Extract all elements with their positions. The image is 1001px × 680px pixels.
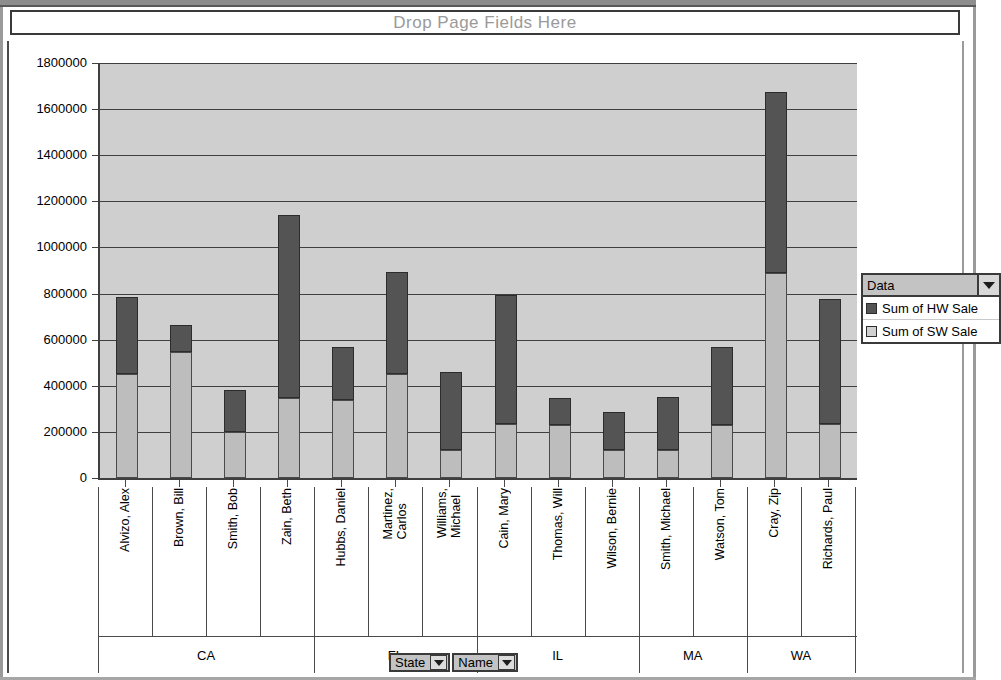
bar-segment-hw-sales[interactable] <box>495 295 517 424</box>
legend-swatch-icon <box>866 326 877 337</box>
y-axis-tick-mark <box>92 247 99 248</box>
bar-stack[interactable] <box>440 63 462 478</box>
category-tick-mark <box>395 480 396 487</box>
y-axis-tick-label: 1000000 <box>11 240 87 253</box>
bar-segment-hw-sales[interactable] <box>116 297 138 374</box>
category-tick-mark <box>125 480 126 487</box>
category-cell-divider <box>747 487 748 636</box>
scan-edge-top-shadow <box>0 5 976 7</box>
category-tick-mark <box>666 480 667 487</box>
category-label: Watson, Tom <box>713 488 727 562</box>
bar-segment-sw-sales[interactable] <box>170 352 192 478</box>
group-label-cell: MA <box>639 637 747 673</box>
category-tick-mark <box>612 480 613 487</box>
y-axis-tick-mark <box>92 294 99 295</box>
bar-stack[interactable] <box>657 63 679 478</box>
y-axis-tick-label: 1400000 <box>11 148 87 161</box>
category-cell-divider <box>206 487 207 636</box>
y-axis-tick-label: 1800000 <box>11 56 87 69</box>
bar-stack[interactable] <box>170 63 192 478</box>
category-label-cell: Watson, Tom <box>693 488 747 636</box>
bar-stack[interactable] <box>765 63 787 478</box>
category-label-cell: Alvizo, Alex <box>98 488 152 636</box>
bar-stack[interactable] <box>116 63 138 478</box>
category-cell-divider <box>693 487 694 636</box>
bar-segment-hw-sales[interactable] <box>603 412 625 450</box>
category-label-cell: Cain, Mary <box>477 488 531 636</box>
bar-stack[interactable] <box>603 63 625 478</box>
bar-segment-hw-sales[interactable] <box>224 390 246 432</box>
category-tick-mark <box>828 480 829 487</box>
bar-stack[interactable] <box>386 63 408 478</box>
group-label: IL <box>552 648 563 663</box>
legend-item-label: Sum of SW Sale <box>882 324 977 339</box>
bar-segment-hw-sales[interactable] <box>332 347 354 400</box>
bar-segment-sw-sales[interactable] <box>819 424 841 478</box>
bar-stack[interactable] <box>224 63 246 478</box>
legend-field-button[interactable]: Data <box>863 275 999 297</box>
field-button-name[interactable]: Name <box>452 653 518 672</box>
bar-segment-hw-sales[interactable] <box>765 92 787 273</box>
category-label: Cray, Zip <box>767 488 781 540</box>
chevron-down-icon[interactable] <box>430 655 447 670</box>
pivot-chart[interactable]: 0200000400000600000800000100000012000001… <box>7 41 964 673</box>
bar-segment-hw-sales[interactable] <box>386 272 408 375</box>
category-label-cell: Hubbs, Daniel <box>314 488 368 636</box>
legend[interactable]: Data Sum of HW SaleSum of SW Sale <box>861 273 1001 344</box>
bar-segment-sw-sales[interactable] <box>765 273 787 478</box>
bar-segment-hw-sales[interactable] <box>440 372 462 450</box>
bar-segment-sw-sales[interactable] <box>657 450 679 478</box>
bar-stack[interactable] <box>495 63 517 478</box>
category-tick-mark <box>558 480 559 487</box>
gridline <box>100 109 857 110</box>
group-label-cell: CA <box>98 637 314 673</box>
chevron-down-icon[interactable] <box>977 275 999 295</box>
category-label: Hubbs, Daniel <box>334 488 348 569</box>
plot-wrapper: 0200000400000600000800000100000012000001… <box>9 41 966 673</box>
legend-item[interactable]: Sum of HW Sale <box>863 297 999 319</box>
category-cell-divider <box>855 487 856 636</box>
bar-segment-hw-sales[interactable] <box>819 299 841 424</box>
bar-segment-sw-sales[interactable] <box>386 374 408 478</box>
bar-segment-sw-sales[interactable] <box>711 425 733 478</box>
plot-area <box>98 63 857 478</box>
bar-segment-sw-sales[interactable] <box>440 450 462 478</box>
bar-segment-sw-sales[interactable] <box>495 424 517 478</box>
category-label: Thomas, Will <box>551 488 565 562</box>
bar-segment-sw-sales[interactable] <box>278 398 300 478</box>
bar-segment-hw-sales[interactable] <box>170 325 192 353</box>
group-label: WA <box>791 648 811 663</box>
bar-segment-sw-sales[interactable] <box>116 374 138 478</box>
category-tick-mark <box>720 480 721 487</box>
bar-segment-sw-sales[interactable] <box>332 400 354 478</box>
field-button-state[interactable]: State <box>389 653 450 672</box>
y-axis-tick-label: 1600000 <box>11 102 87 115</box>
bar-stack[interactable] <box>278 63 300 478</box>
page-fields-drop-zone[interactable]: Drop Page Fields Here <box>10 10 960 35</box>
field-button-label: State <box>395 655 430 670</box>
bar-stack[interactable] <box>711 63 733 478</box>
bar-segment-hw-sales[interactable] <box>278 215 300 398</box>
scan-edge-left <box>0 7 3 680</box>
legend-item[interactable]: Sum of SW Sale <box>863 319 999 342</box>
legend-item-label: Sum of HW Sale <box>882 301 978 316</box>
category-tick-mark <box>179 480 180 487</box>
y-axis-tick-mark <box>92 340 99 341</box>
bar-segment-hw-sales[interactable] <box>657 397 679 450</box>
category-tick-mark <box>287 480 288 487</box>
field-buttons-bar: StateName <box>389 653 518 672</box>
bar-stack[interactable] <box>819 63 841 478</box>
chevron-down-icon[interactable] <box>498 655 515 670</box>
category-cell-divider <box>639 487 640 636</box>
bar-segment-sw-sales[interactable] <box>549 425 571 478</box>
category-label: Martinez, Carlos <box>381 488 409 541</box>
bar-segment-hw-sales[interactable] <box>711 347 733 425</box>
category-cell-divider <box>260 487 261 636</box>
bar-stack[interactable] <box>549 63 571 478</box>
bar-segment-sw-sales[interactable] <box>224 432 246 478</box>
bar-stack[interactable] <box>332 63 354 478</box>
bar-segment-hw-sales[interactable] <box>549 398 571 425</box>
category-label: Zain, Beth <box>280 488 294 547</box>
bar-segment-sw-sales[interactable] <box>603 450 625 478</box>
category-tick-mark <box>449 480 450 487</box>
